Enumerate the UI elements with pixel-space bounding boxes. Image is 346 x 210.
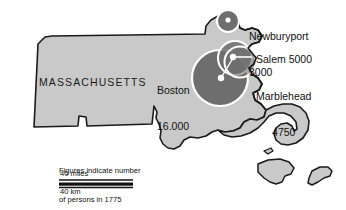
state-name-label: MASSACHUSETTS [39,76,147,88]
scale-bar-miles-label: 40 miles [60,170,88,179]
city-label-salem: Salem 5000 [256,53,312,65]
nantucket-shape [308,167,332,185]
city-label-boston-name: Boston [157,84,190,96]
city-dot-newburyport [225,17,230,22]
city-label-marblehead-population: 4750 [256,126,311,138]
city-label-newburyport-name: Newburyport [249,30,309,42]
city-label-marblehead-name: Marblehead [256,90,311,102]
scale-bar-km-label: 40 km [60,188,81,197]
massachusetts-population-map: MASSACHUSETTS Boston 16.000 Newburyport … [0,0,346,210]
city-label-boston-population: 16.000 [157,120,190,132]
city-dot-salem [230,54,236,60]
legend-note-line-2: of persons in 1775 [59,195,140,205]
marthas-vineyard-shape [258,159,294,184]
city-label-boston: Boston 16.000 [157,60,190,157]
city-label-marblehead: Marblehead 4750 [256,66,311,163]
city-dot-boston [218,75,224,81]
